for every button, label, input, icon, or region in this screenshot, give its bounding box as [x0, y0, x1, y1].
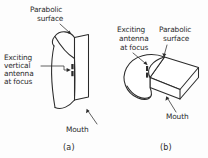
- panel-a-caption: (a): [63, 143, 75, 152]
- panel-b-parabolic-surface-label-line1: Parabolic: [159, 25, 191, 34]
- figure-container: Parabolic surface Exciting: [0, 0, 208, 158]
- panel-a: Parabolic surface Exciting: [4, 5, 97, 152]
- panel-a-exciting-antenna-label-line4: at focus: [4, 77, 33, 86]
- panel-a-left-edge: [52, 46, 55, 108]
- panel-a-mouth-plane: [75, 35, 89, 101]
- panel-a-top-rim-arc: [52, 32, 74, 46]
- panel-a-bottom-edge: [55, 100, 75, 108]
- panel-a-exciting-antenna: [71, 64, 73, 76]
- panel-b-exciting-antenna-label-line3: at focus: [120, 43, 149, 52]
- panel-b-mouth-leader: [168, 99, 176, 112]
- panel-a-antenna-leader: [41, 66, 68, 70]
- panel-a-mouth-leader: [88, 111, 97, 124]
- panel-a-parabolic-surface-label-line2: surface: [37, 14, 64, 23]
- antenna-diagram: Parabolic surface Exciting: [0, 0, 208, 158]
- panel-b: Exciting antenna at focus Parabolic surf…: [117, 25, 199, 152]
- panel-a-mouth-label: Mouth: [66, 125, 89, 134]
- panel-b-caption: (b): [160, 143, 172, 152]
- panel-b-mouth-label: Mouth: [166, 112, 189, 121]
- panel-a-parabolic-surface-label-line1: Parabolic: [30, 5, 62, 14]
- panel-a-inner-fold-upper: [55, 37, 75, 59]
- panel-b-exciting-antenna-label-line2: antenna: [119, 34, 149, 43]
- panel-a-antenna-arrowhead: [67, 68, 71, 72]
- panel-b-antenna-element-upper: [146, 66, 148, 71]
- panel-a-antenna-element-lower: [71, 71, 73, 76]
- panel-a-antenna-element-upper: [71, 64, 73, 69]
- panel-b-parabolic-surface-label-line2: surface: [163, 34, 190, 43]
- panel-b-parabolic-surface-leader: [165, 45, 168, 54]
- panel-b-exciting-antenna-label-line1: Exciting: [117, 25, 146, 34]
- panel-b-antenna-element-lower: [146, 73, 148, 78]
